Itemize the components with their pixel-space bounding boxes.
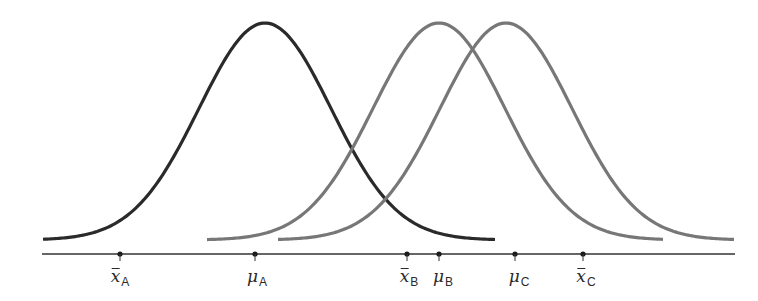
subscript: B <box>445 275 453 289</box>
label-xbar-a: xA <box>111 268 130 285</box>
xbar-symbol: x <box>400 268 410 285</box>
axis-points <box>117 251 585 261</box>
normal-curves-diagram <box>0 0 758 301</box>
distribution-curves <box>43 23 734 240</box>
mu-symbol: μ <box>509 266 520 286</box>
curve-c <box>278 23 734 239</box>
label-mu-a: μA <box>247 268 267 285</box>
subscript: C <box>521 275 530 289</box>
label-mu-c: μC <box>509 268 530 285</box>
subscript: A <box>259 275 267 289</box>
label-xbar-b: xB <box>400 268 419 285</box>
label-xbar-c: xC <box>576 268 595 285</box>
mu-symbol: μ <box>433 266 444 286</box>
xbar-symbol: x <box>111 268 121 285</box>
subscript: A <box>121 275 129 289</box>
subscript: C <box>587 275 596 289</box>
label-mu-b: μB <box>433 268 453 285</box>
curve-b <box>207 23 663 240</box>
xbar-symbol: x <box>576 268 586 285</box>
mu-symbol: μ <box>247 266 258 286</box>
subscript: B <box>410 275 418 289</box>
